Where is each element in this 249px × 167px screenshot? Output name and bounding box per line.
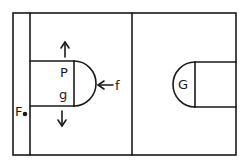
court-diagram: P g f F G [0,0,249,167]
up-arrow-icon [61,42,69,57]
label-f: f [115,78,120,93]
down-arrow-icon [58,111,66,126]
label-F: F [15,104,22,119]
court-boundary [13,13,236,155]
left-arrow-icon [98,81,113,89]
label-G: G [178,77,188,92]
player-dot-icon [23,112,28,117]
label-p: P [60,65,68,80]
label-g: g [59,87,67,102]
left-semicircle [74,61,96,106]
